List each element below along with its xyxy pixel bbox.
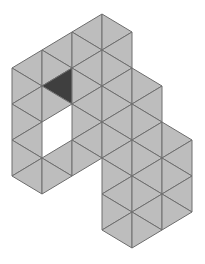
triangle-grid-shape [0, 0, 205, 264]
triangle-layer [12, 14, 192, 248]
